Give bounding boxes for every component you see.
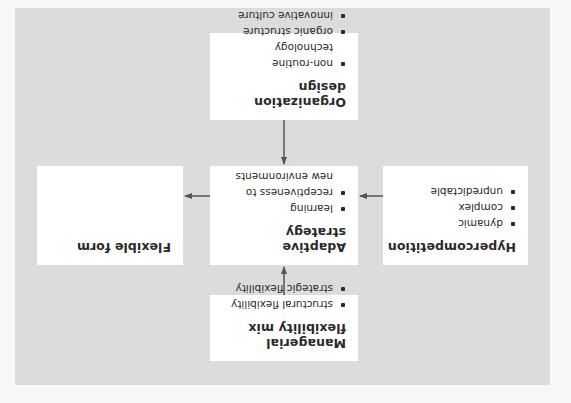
node-managerial-flexibility-mix: Managerial flexibility mix structural fl… xyxy=(210,295,358,361)
node-item: dynamic xyxy=(395,216,516,232)
node-item: organic structure xyxy=(222,24,346,40)
node-items: learning receptiveness to new environmen… xyxy=(222,169,346,217)
node-hypercompetition: Hypercompetition dynamic complex unpredi… xyxy=(383,166,528,265)
node-adaptive-strategy: Adaptive strategy learning receptiveness… xyxy=(210,166,358,265)
node-flexible-form: Flexible form xyxy=(37,166,183,265)
node-items: non-routine technology organic structure… xyxy=(222,8,346,72)
node-item: non-routine technology xyxy=(222,40,346,72)
diagram-stage: Managerial flexibility mix structural fl… xyxy=(0,0,571,403)
node-item: receptiveness to new environments xyxy=(222,169,346,201)
node-title: Adaptive strategy xyxy=(222,225,346,255)
node-items: structural flexibility strategic flexibi… xyxy=(222,281,346,313)
node-title: Managerial flexibility mix xyxy=(222,321,346,351)
node-item: innovative culture xyxy=(222,8,346,24)
node-item: learning xyxy=(222,201,346,217)
node-items: dynamic complex unpredictable xyxy=(395,184,516,232)
node-title: Hypercompetition xyxy=(395,240,516,255)
node-item: structural flexibility xyxy=(222,297,346,313)
node-item: strategic flexibility xyxy=(222,281,346,297)
node-title: Organization design xyxy=(222,80,346,110)
node-title: Flexible form xyxy=(49,240,171,255)
node-item: complex xyxy=(395,200,516,216)
node-item: unpredictable xyxy=(395,184,516,200)
node-organization-design: Organization design non-routine technolo… xyxy=(210,33,358,120)
